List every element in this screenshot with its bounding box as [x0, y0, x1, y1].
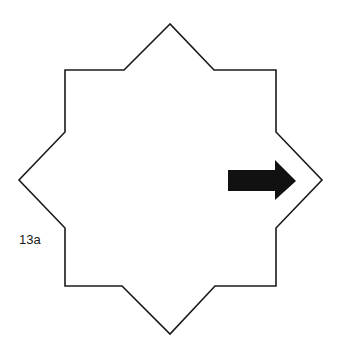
figure-canvas: 13a: [0, 0, 340, 356]
figure-label: 13a: [19, 232, 41, 247]
right-arrow-icon: [228, 160, 296, 200]
star-diagram: [0, 0, 340, 356]
